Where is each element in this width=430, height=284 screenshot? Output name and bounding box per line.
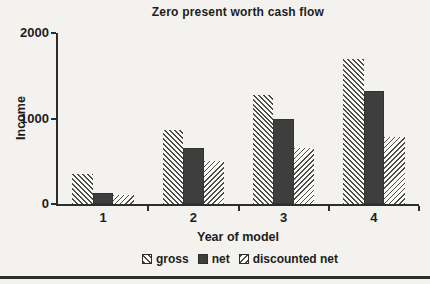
legend-item-net: net [198,252,230,266]
chart-figure: Zero present worth cash flow Income 0100… [0,0,430,284]
y-tick-label-0: 0 [11,197,49,211]
bar-discounted-net-year-1 [113,195,134,204]
legend-item-gross: gross [142,252,189,266]
legend-swatch-discounted-net [239,254,249,264]
bar-discounted-net-year-4 [384,137,405,204]
bottom-rule [0,276,430,279]
y-tick-1000 [51,118,56,120]
y-tick-0 [51,203,56,205]
legend-label-gross: gross [156,252,189,266]
y-tick-2000 [51,32,56,34]
legend-label-discounted-net: discounted net [253,252,338,266]
x-axis-label: Year of model [46,230,430,244]
legend-label-net: net [212,252,230,266]
bar-net-year-2 [183,148,204,204]
x-tick-2 [238,206,240,211]
x-tick-3 [328,206,330,211]
bar-gross-year-3 [253,95,274,204]
bar-discounted-net-year-2 [204,161,225,204]
x-category-label-4: 4 [362,211,386,225]
legend: grossnetdiscounted net [50,251,430,266]
x-category-label-2: 2 [181,211,205,225]
legend-item-discounted-net: discounted net [239,252,338,266]
bar-net-year-4 [364,91,385,204]
bar-discounted-net-year-3 [294,148,315,204]
plot-area [56,33,419,206]
x-tick-4 [418,206,420,211]
y-tick-label-1000: 1000 [11,112,49,126]
legend-swatch-net [198,254,208,264]
legend-swatch-gross [142,254,152,264]
bar-gross-year-2 [163,130,184,204]
chart-title: Zero present worth cash flow [46,5,430,19]
bar-net-year-1 [93,193,114,204]
bar-net-year-3 [273,119,294,204]
x-category-label-3: 3 [272,211,296,225]
bar-gross-year-4 [343,59,364,204]
bar-gross-year-1 [72,174,93,204]
x-tick-1 [147,206,149,211]
y-tick-label-2000: 2000 [11,26,49,40]
x-category-label-1: 1 [91,211,115,225]
